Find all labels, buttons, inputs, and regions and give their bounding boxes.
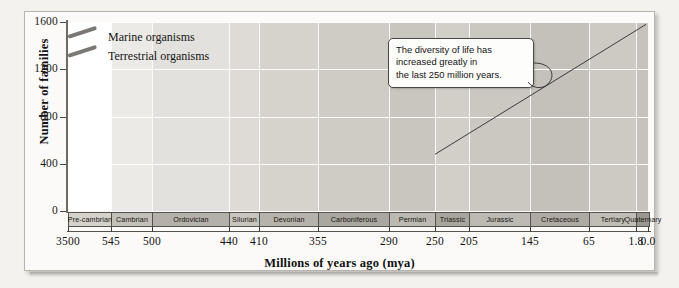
x-tick-0-0 — [648, 227, 649, 232]
period-cell-triassic: Triassic — [436, 213, 470, 226]
diversity-callout: The diversity of life has increased grea… — [388, 38, 534, 88]
x-tick-label-440: 440 — [220, 235, 238, 247]
period-label: Silurian — [232, 215, 257, 224]
x-tick-410 — [259, 227, 260, 232]
gridline-v-65 — [589, 22, 590, 211]
x-tick-65 — [589, 227, 590, 232]
y-tick-label-800: 800 — [22, 110, 58, 122]
x-tick-label-290: 290 — [380, 235, 398, 247]
period-label: Triassic — [440, 215, 465, 224]
callout-line-3: the last 250 million years. — [396, 69, 526, 81]
period-cell-carboniferous: Carboniferous — [319, 213, 390, 226]
gridline-v-1-8 — [636, 22, 637, 211]
x-tick-label-65: 65 — [583, 235, 595, 247]
period-cell-quaternary: Quaternary — [637, 213, 649, 226]
page-shadow — [30, 272, 658, 277]
x-tick-440 — [229, 227, 230, 232]
gridline-h-800 — [68, 117, 648, 118]
x-tick-label-250: 250 — [426, 235, 444, 247]
period-cell-permian: Permian — [390, 213, 436, 226]
period-label: Permian — [399, 215, 426, 224]
period-cell-pre-cambrian: Pre-cambrian — [69, 213, 112, 226]
period-cell-jurassic: Jurassic — [470, 213, 531, 226]
y-tick-label-1600: 1600 — [22, 15, 58, 27]
x-axis-title: Millions of years ago (mya) — [0, 256, 679, 271]
legend-label-marine: Marine organisms — [108, 30, 195, 45]
chart-legend: Marine organisms Terrestrial organisms — [60, 30, 260, 68]
x-tick-label-3500: 3500 — [56, 235, 80, 247]
x-tick-500 — [152, 227, 153, 232]
period-label: Devonian — [273, 215, 304, 224]
period-cell-devonian: Devonian — [260, 213, 319, 226]
period-label: Quaternary — [625, 215, 662, 224]
period-label: Cretaceous — [541, 215, 579, 224]
x-tick-label-410: 410 — [250, 235, 268, 247]
x-tick-label-0-0: 0.0 — [641, 235, 656, 247]
x-tick-205 — [469, 227, 470, 232]
y-axis-title: Number of families — [37, 17, 52, 167]
geologic-period-bar: Pre-cambrianCambrianOrdovicianSilurianDe… — [68, 212, 650, 227]
figure-container: Number of families 040080012001600 Pre-c… — [0, 0, 679, 288]
legend-item-terrestrial: Terrestrial organisms — [60, 49, 260, 68]
x-axis-line — [67, 231, 651, 232]
callout-line-2: increased greatly in — [396, 56, 526, 68]
x-tick-290 — [389, 227, 390, 232]
x-tick-1-8 — [636, 227, 637, 232]
callout-line-1: The diversity of life has — [396, 44, 526, 56]
x-tick-label-355: 355 — [309, 235, 327, 247]
x-tick-3500 — [68, 227, 69, 232]
period-label: Jurassic — [486, 215, 513, 224]
x-tick-label-500: 500 — [143, 235, 161, 247]
y-tick-label-1200: 1200 — [22, 62, 58, 74]
x-tick-label-205: 205 — [460, 235, 478, 247]
gridline-h-1200 — [68, 69, 648, 70]
period-label: Tertiary — [601, 215, 625, 224]
period-cell-cretaceous: Cretaceous — [531, 213, 590, 226]
x-tick-545 — [111, 227, 112, 232]
period-cell-silurian: Silurian — [230, 213, 260, 226]
gridline-h-1600 — [68, 22, 648, 23]
x-tick-250 — [435, 227, 436, 232]
gridline-v-355 — [318, 22, 319, 211]
period-label: Pre-cambrian — [68, 215, 112, 224]
x-tick-355 — [318, 227, 319, 232]
x-tick-label-145: 145 — [521, 235, 539, 247]
x-tick-145 — [530, 227, 531, 232]
gridline-h-400 — [68, 164, 648, 165]
period-cell-ordovician: Ordovician — [153, 213, 230, 226]
y-tick-label-400: 400 — [22, 157, 58, 169]
period-label: Ordovician — [173, 215, 208, 224]
period-label: Cambrian — [116, 215, 148, 224]
period-cell-cambrian: Cambrian — [112, 213, 153, 226]
period-label: Carboniferous — [331, 215, 377, 224]
y-tick-label-0: 0 — [22, 204, 58, 216]
legend-label-terrestrial: Terrestrial organisms — [108, 49, 209, 64]
x-tick-label-545: 545 — [102, 235, 120, 247]
